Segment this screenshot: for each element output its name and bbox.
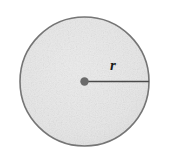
- diagram-canvas: [0, 0, 170, 160]
- circle-radius-diagram: r: [0, 0, 170, 160]
- radius-label: r: [110, 58, 116, 73]
- center-dot: [80, 77, 88, 85]
